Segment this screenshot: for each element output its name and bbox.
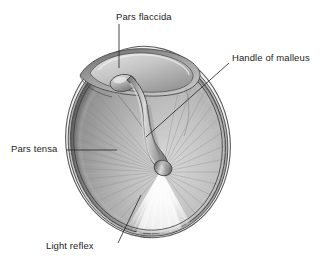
label-handle-of-malleus: Handle of malleus (232, 52, 310, 63)
label-pars-flaccida: Pars flaccida (116, 11, 172, 22)
label-pars-tensa: Pars tensa (11, 143, 57, 154)
label-light-reflex: Light reflex (46, 240, 94, 251)
eardrum-illustration (0, 0, 324, 263)
tympanic-membrane-figure: Pars flaccida Handle of malleus Pars ten… (0, 0, 324, 263)
